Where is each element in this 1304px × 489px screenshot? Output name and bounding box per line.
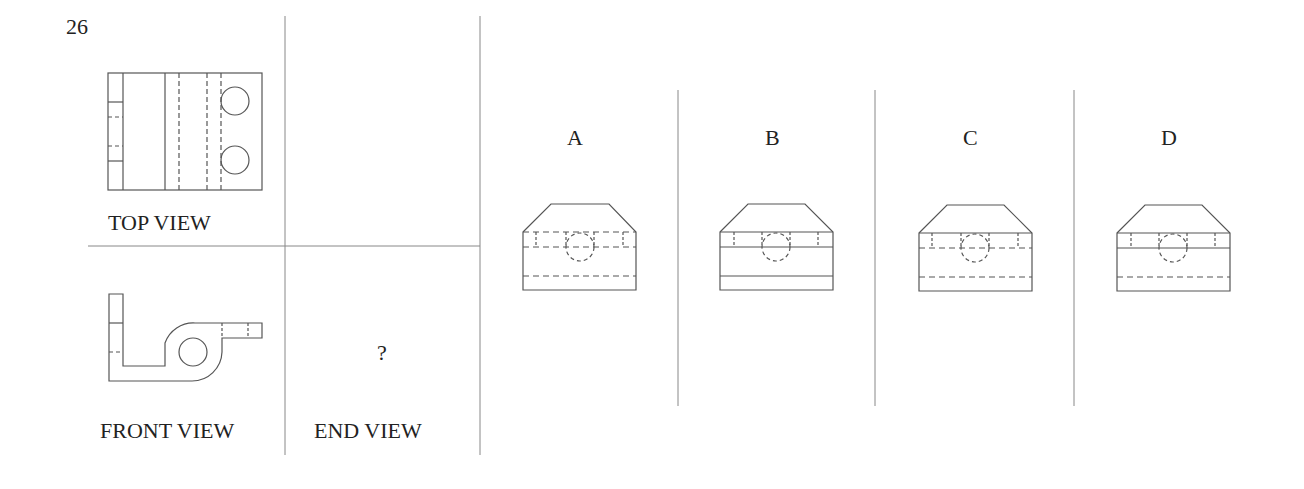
option-d-drawing[interactable] bbox=[0, 0, 1304, 489]
